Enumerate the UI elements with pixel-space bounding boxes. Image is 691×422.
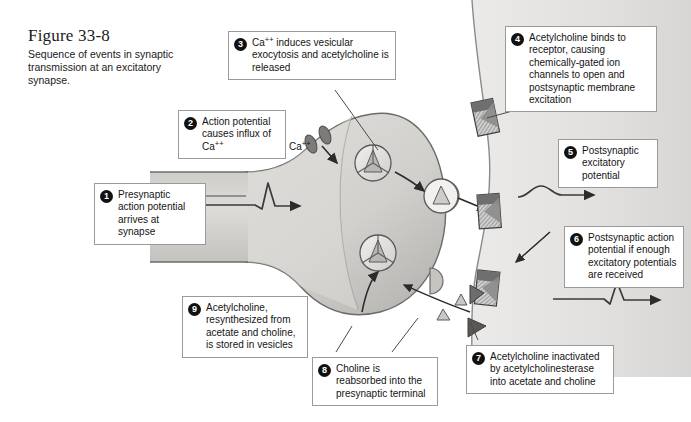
callout-step-6[interactable]: 6 Postsynaptic action potential if enoug… <box>564 226 684 288</box>
step-number-badge: 9 <box>188 303 201 316</box>
step-text: Acetylcholine, resynthesized from acetat… <box>206 302 301 352</box>
figure-number: Figure 33-8 <box>28 26 110 46</box>
step-text: Presynaptic action potential arrives at … <box>118 189 199 239</box>
step-text: Action potential causes influx of Ca++ <box>202 116 279 153</box>
callout-step-8[interactable]: 8 Choline is reabsorbed into the presyna… <box>312 357 438 406</box>
step-number-badge: 4 <box>511 33 524 46</box>
callout-step-5[interactable]: 5 Postsynaptic excitatory potential <box>558 139 658 188</box>
step-text: Postsynaptic action potential if enough … <box>588 232 677 282</box>
step-number-badge: 3 <box>234 38 247 51</box>
callout-step-2[interactable]: 2 Action potential causes influx of Ca++ <box>178 110 286 159</box>
step-text: Ca++ induces vesicular exocytosis and ac… <box>252 37 389 74</box>
callout-step-1[interactable]: 1 Presynaptic action potential arrives a… <box>94 183 206 245</box>
callout-step-9[interactable]: 9 Acetylcholine, resynthesized from acet… <box>182 296 308 358</box>
vesicle <box>355 145 391 181</box>
receptor <box>477 193 501 228</box>
vesicle-fusing <box>424 179 458 213</box>
callout-step-4[interactable]: 4 Acetylcholine binds to receptor, causi… <box>505 26 657 112</box>
step-number-badge: 2 <box>184 117 197 130</box>
step-number-badge: 6 <box>570 233 583 246</box>
step-text: Acetylcholine binds to receptor, causing… <box>529 32 650 106</box>
calcium-ion-label: Ca++ <box>289 139 311 152</box>
step-number-badge: 1 <box>100 190 113 203</box>
step-number-badge: 7 <box>472 352 485 365</box>
step-number-badge: 5 <box>564 146 577 159</box>
step-text: Acetylcholine inactivated by acetylcholi… <box>490 351 607 388</box>
step-number-badge: 8 <box>318 364 331 377</box>
callout-step-3[interactable]: 3 Ca++ induces vesicular exocytosis and … <box>228 31 396 80</box>
step-text: Postsynaptic excitatory potential <box>582 145 651 182</box>
receptor <box>474 270 499 306</box>
vesicle <box>360 235 396 271</box>
step-text: Choline is reabsorbed into the presynapt… <box>336 363 431 400</box>
callout-step-7[interactable]: 7 Acetylcholine inactivated by acetylcho… <box>466 345 614 394</box>
figure-caption: Sequence of events in synaptic transmiss… <box>28 48 198 88</box>
figure-33-8: Figure 33-8 Sequence of events in synapt… <box>0 0 691 422</box>
